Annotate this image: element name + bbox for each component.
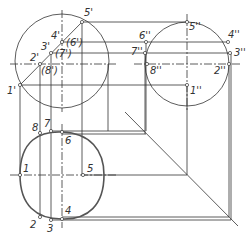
label-1pp: 1'' [190, 86, 202, 96]
miter-line [125, 112, 238, 226]
label-7: 7 [44, 119, 50, 129]
label-5: 5 [87, 164, 93, 174]
projection-drawing [0, 0, 250, 241]
label-6: 6 [65, 136, 71, 146]
label-8: 8 [32, 123, 38, 133]
label-3pp: 3'' [234, 48, 246, 58]
label-5p: 5' [84, 8, 93, 18]
label-7pp: 7'' [131, 47, 143, 57]
label-2p: 2' [30, 53, 39, 63]
label-8pp: 8'' [150, 66, 162, 76]
label-8p: (8') [41, 66, 58, 76]
label-2: 2 [30, 220, 36, 230]
label-6p: (6') [66, 38, 83, 48]
label-7p: (7') [55, 49, 72, 59]
label-6pp: 6'' [139, 31, 151, 41]
label-1: 1 [23, 164, 29, 174]
label-4: 4 [65, 206, 71, 216]
label-2pp: 2'' [214, 66, 226, 76]
label-5pp: 5'' [189, 22, 201, 32]
label-4pp: 4'' [228, 30, 240, 40]
label-1p: 1' [7, 86, 16, 96]
label-3: 3 [47, 224, 53, 234]
label-4p: 4' [51, 31, 60, 41]
label-3p: 3' [41, 42, 50, 52]
